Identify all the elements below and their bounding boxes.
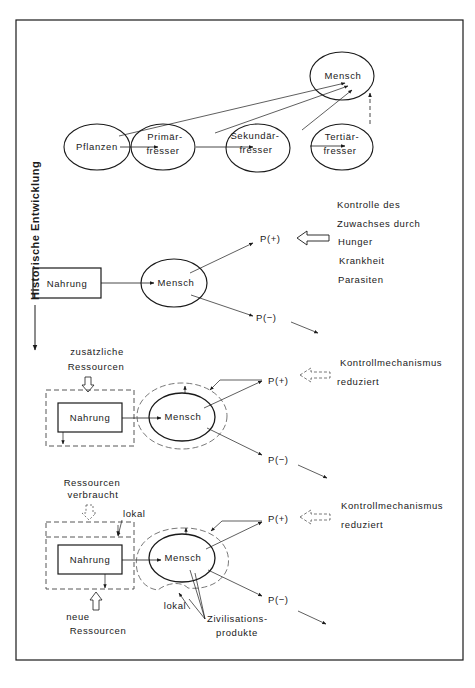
label-p-plus-3: P(+) [268,375,289,386]
label-ressourcen-verbraucht-2: verbraucht [68,489,119,500]
label-tertiaer-2: fresser [323,145,356,156]
label-produkte: produkte [216,627,258,638]
label-primaer-1: Primär- [147,131,182,142]
label-kontrollmechanismus-4: Kontrollmechanismus [341,500,443,511]
label-nahrung-2: Nahrung [47,278,88,289]
label-p-minus-3: P(−) [268,454,289,465]
control-text-1: Kontrolle des [337,199,400,210]
label-p-minus-2: P(−) [256,312,277,323]
control-text-2: Zuwachses durch [337,218,420,229]
label-nahrung-3: Nahrung [70,412,111,423]
arrow-p-minus-out-4 [298,611,326,624]
label-p-plus-4: P(+) [268,513,289,524]
control-text-4: Krankheit [339,255,385,266]
label-mensch-2: Mensch [158,277,195,288]
diagram-canvas: Historische Entwicklung Pflanzen Primär-… [0,0,475,688]
label-mensch-3: Mensch [165,411,202,422]
section-additional-resources: zusätzliche Ressourcen Nahrung Mensch P(… [46,346,442,478]
label-lokal-top: lokal [123,508,146,519]
label-zusaetzliche: zusätzliche [70,346,124,357]
label-neue-ressourcen: Ressourcen [70,625,127,636]
label-ressourcen-3: Ressourcen [68,361,125,372]
arrow-pflanzen-mensch [119,83,345,136]
label-mensch-top: Mensch [325,70,362,81]
arrow-p-minus-3 [207,428,262,455]
label-p-minus-4: P(−) [268,594,289,605]
arrow-p-minus-out-2 [291,322,318,333]
section-food-chain: Pflanzen Primär- fresser Sekundär- fress… [64,52,374,172]
arrow-p-minus-2 [191,295,253,316]
label-sekundaer-2: fresser [239,144,272,155]
dashed-open-arrow-control-4 [300,510,330,524]
label-reduziert-3: reduziert [337,376,379,387]
arrow-p-minus-4 [208,570,262,596]
line-products-2 [195,573,205,619]
label-kontrollmechanismus-3: Kontrollmechanismus [340,357,442,368]
label-ressourcen-verbraucht-1: Ressourcen [64,477,121,488]
label-nahrung-4: Nahrung [70,554,111,565]
side-label: Historische Entwicklung [29,161,41,300]
section-natural-control: Nahrung Mensch P(+) P(−) Kontrolle des Z… [33,199,420,333]
label-mensch-4: Mensch [165,552,202,563]
control-text-3: Hunger [338,236,373,247]
arrow-p-plus-3 [204,381,262,408]
dashed-open-arrow-down-4 [82,505,96,520]
label-neue: neue [66,611,90,622]
open-arrow-control-2 [297,231,329,245]
label-pflanzen: Pflanzen [76,141,118,152]
control-text-5: Parasiten [338,274,384,285]
open-arrow-up-new-resources [90,592,102,610]
history-axis: Historische Entwicklung [29,161,41,350]
label-lokal-bottom: lokal [164,600,187,611]
arrow-p-minus-out-3 [298,465,327,478]
label-sekundaer-1: Sekundär- [230,130,279,141]
label-p-plus-2: P(+) [260,233,281,244]
dashed-open-arrow-control-3 [300,368,330,382]
arrow-p-plus-4 [206,522,262,549]
label-zivilisations: Zivilisations- [207,613,268,624]
label-tertiaer-1: Tertiär- [325,131,359,142]
arrow-p-plus-2 [190,243,253,273]
label-reduziert-4: reduziert [341,519,383,530]
section-resources-used: Ressourcen verbraucht lokal Nahrung neue… [46,477,443,638]
